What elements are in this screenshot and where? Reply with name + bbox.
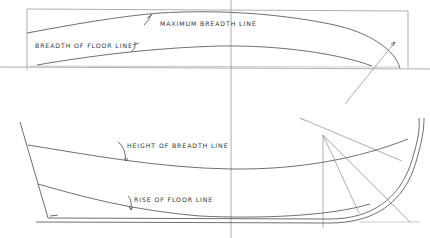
plan-baseline [0, 67, 430, 69]
maximum-breadth-label: MAXIMUM BREADTH LINE [160, 20, 256, 27]
keel-line-lower [36, 118, 424, 223]
rise-of-floor-leader [128, 196, 133, 210]
keel-mark [50, 215, 58, 216]
keel-line-upper [48, 118, 419, 219]
rise-of-floor-label: RISE OF FLOOR LINE [134, 196, 213, 203]
construction-ray-1 [323, 135, 359, 213]
construction-ray-2 [323, 135, 410, 222]
plan-baseline-inner [30, 66, 400, 67]
profile-view: HEIGHT OF BREADTH LINE RISE OF FLOOR LIN… [20, 118, 424, 228]
plan-frame-top [27, 9, 408, 11]
construction-ray-3 [300, 118, 402, 161]
maximum-breadth-leader [144, 14, 152, 25]
plan-view: MAXIMUM BREADTH LINE BREADTH OF FLOOR LI… [0, 9, 430, 104]
bow-arrowhead [391, 42, 395, 46]
breadth-of-floor-label: BREADTH OF FLOOR LINE [35, 42, 133, 49]
height-of-breadth-label: HEIGHT OF BREADTH LINE [127, 142, 228, 149]
ship-lines-drawing: MAXIMUM BREADTH LINE BREADTH OF FLOOR LI… [0, 0, 430, 238]
bow-diagonal [345, 42, 395, 104]
stern-post [20, 122, 48, 218]
